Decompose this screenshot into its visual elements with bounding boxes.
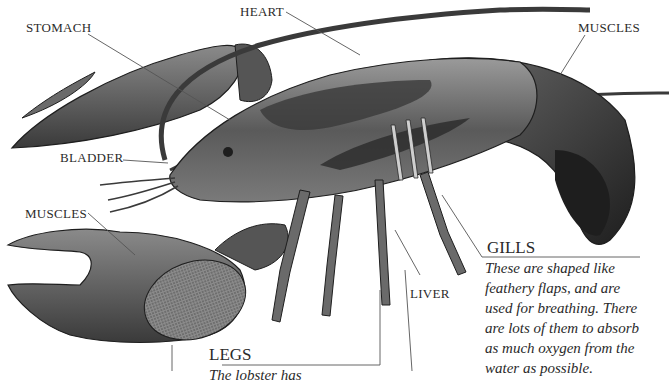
legs-heading: LEGS: [209, 345, 252, 365]
gills-description: These are shaped like feathery flaps, an…: [485, 258, 669, 378]
label-liver: LIVER: [410, 286, 450, 302]
label-stomach: STOMACH: [26, 20, 91, 36]
gills-heading: GILLS: [487, 238, 535, 258]
whiskers: [100, 178, 178, 212]
label-heart: HEART: [240, 4, 284, 20]
label-muscles-tail: MUSCLES: [578, 20, 640, 36]
legs-description: The lobster has: [209, 365, 302, 384]
lower-claw: [8, 224, 288, 354]
label-muscles-claw: MUSCLES: [25, 206, 87, 222]
label-bladder: BLADDER: [60, 150, 124, 166]
